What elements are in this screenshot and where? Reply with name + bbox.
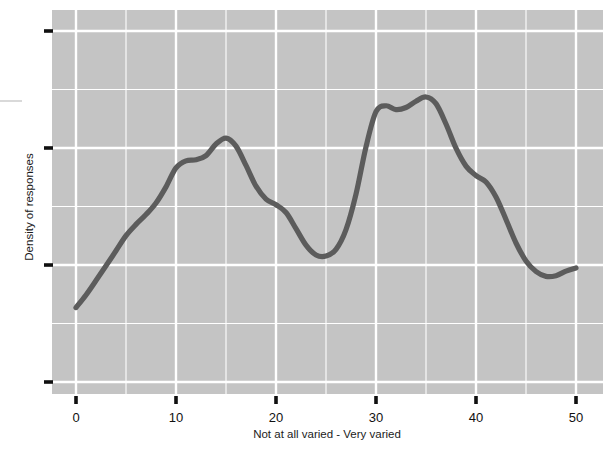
x-tick-label: 20 — [269, 410, 283, 425]
y-axis-title: Density of responses — [23, 153, 35, 261]
plot-panel-background — [52, 10, 603, 394]
density-chart: 01020304050 Not at all varied - Very var… — [0, 0, 603, 465]
chart-canvas: 01020304050 Not at all varied - Very var… — [0, 0, 603, 465]
x-tick-label: 0 — [72, 410, 79, 425]
x-tick-label: 40 — [469, 410, 483, 425]
x-tick-label: 30 — [369, 410, 383, 425]
x-tick-label: 50 — [569, 410, 583, 425]
x-axis-title: Not at all varied - Very varied — [253, 428, 401, 440]
x-tick-label: 10 — [169, 410, 183, 425]
